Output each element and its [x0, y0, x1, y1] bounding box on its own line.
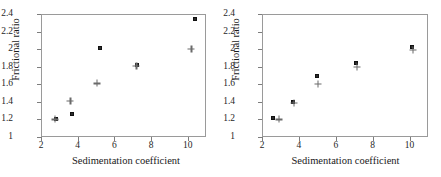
y-tick-mark	[258, 84, 262, 85]
right-x-axis-title: Sedimentation coefficient	[220, 155, 441, 166]
x-tick-label: 10	[173, 140, 203, 151]
left-plot-frame	[41, 14, 206, 137]
x-tick-label: 2	[26, 140, 56, 151]
y-tick-mark	[258, 32, 262, 33]
right-panel: 24681011.21.41.61.822.22.4 Sedimentation…	[220, 0, 441, 177]
y-tick-mark	[37, 119, 41, 120]
y-tick-mark	[258, 49, 262, 50]
data-point-plus	[275, 116, 282, 123]
data-point-square	[315, 74, 319, 78]
y-tick-mark	[37, 137, 41, 138]
data-point-plus	[51, 116, 58, 123]
data-point-plus	[67, 97, 74, 104]
y-tick-label: 1.2	[0, 113, 13, 124]
scatter-figure: 24681011.21.41.61.822.22.4 Sedimentation…	[0, 0, 441, 177]
y-tick-mark	[37, 32, 41, 33]
y-tick-mark	[37, 14, 41, 15]
x-tick-label: 8	[358, 140, 388, 151]
x-tick-label: 4	[284, 140, 314, 151]
data-point-plus	[353, 63, 360, 70]
x-tick-label: 6	[321, 140, 351, 151]
data-point-plus	[410, 47, 417, 54]
x-tick-label: 8	[136, 140, 166, 151]
x-tick-label: 2	[247, 140, 277, 151]
data-point-square	[70, 112, 74, 116]
y-tick-mark	[37, 49, 41, 50]
y-tick-label: 1.2	[209, 113, 235, 124]
y-tick-mark	[258, 67, 262, 68]
data-point-plus	[133, 62, 140, 69]
y-tick-mark	[258, 14, 262, 15]
data-point-plus	[291, 99, 298, 106]
right-plot-frame	[262, 14, 428, 137]
data-point-plus	[188, 46, 195, 53]
x-tick-label: 6	[99, 140, 129, 151]
data-point-plus	[93, 80, 100, 87]
x-tick-label: 4	[63, 140, 93, 151]
data-point-square	[193, 17, 197, 21]
x-tick-label: 10	[395, 140, 425, 151]
y-tick-mark	[258, 137, 262, 138]
left-x-axis-title: Sedimentation coefficient	[0, 155, 220, 166]
y-tick-mark	[258, 102, 262, 103]
data-point-plus	[315, 81, 322, 88]
right-y-axis-title: Frictional ratio	[230, 0, 241, 102]
y-tick-mark	[37, 84, 41, 85]
left-y-axis-title: Frictional ratio	[10, 0, 21, 102]
y-tick-mark	[258, 119, 262, 120]
data-point-square	[98, 46, 102, 50]
y-tick-mark	[37, 67, 41, 68]
left-panel: 24681011.21.41.61.822.22.4 Sedimentation…	[0, 0, 220, 177]
y-tick-label: 1	[209, 131, 235, 142]
y-tick-label: 1	[0, 131, 13, 142]
y-tick-mark	[37, 102, 41, 103]
